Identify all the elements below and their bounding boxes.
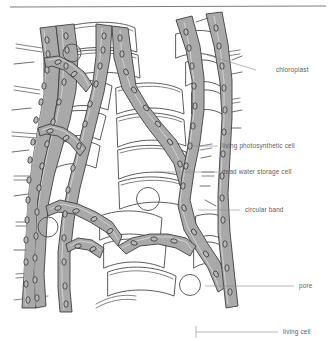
chloroplast — [25, 217, 29, 224]
chloroplast — [222, 129, 226, 136]
label-dead-water-storage-cell: dead water storage cell — [222, 168, 292, 176]
chloroplast — [120, 51, 124, 58]
chloroplast — [62, 259, 66, 266]
chloroplast — [217, 43, 221, 50]
chloroplast — [35, 295, 39, 302]
chloroplast — [223, 107, 227, 114]
chloroplast — [193, 103, 197, 110]
chloroplast — [221, 217, 225, 224]
chloroplast — [190, 63, 194, 70]
chloroplast — [46, 50, 51, 57]
chloroplast — [101, 47, 105, 54]
band-lower-center — [118, 234, 196, 256]
label-circular-band: circular band — [245, 206, 284, 213]
chloroplast — [64, 63, 68, 70]
chloroplast — [24, 259, 28, 266]
chloroplast — [183, 162, 188, 169]
chloroplast — [33, 116, 39, 123]
label-living-cell: living cell — [283, 328, 311, 336]
chloroplast — [63, 32, 68, 39]
chloroplast — [44, 36, 49, 43]
label-chloroplast: chloroplast — [276, 66, 309, 74]
chloroplast — [192, 83, 196, 90]
chloroplast — [64, 301, 68, 308]
chloroplast — [63, 283, 67, 290]
chloroplast — [102, 33, 107, 40]
chloroplast — [26, 297, 30, 304]
chloroplast — [188, 142, 193, 149]
chloroplast — [33, 277, 37, 284]
chloroplast — [222, 85, 226, 92]
pore-circle — [180, 275, 201, 296]
top-divider-rule — [10, 6, 326, 7]
pore-circle — [137, 188, 160, 211]
label-pore: pore — [299, 282, 313, 290]
chloroplast — [213, 24, 218, 31]
chloroplast — [191, 123, 195, 130]
chloroplast — [63, 210, 68, 217]
chloroplast — [61, 78, 66, 85]
leader-line-chloroplast — [207, 55, 256, 70]
chloroplast — [187, 45, 191, 52]
chloroplast — [33, 255, 37, 262]
chloroplast — [223, 241, 227, 248]
band-lower-short — [66, 238, 104, 258]
chloroplast — [34, 233, 38, 240]
chloroplast — [62, 235, 66, 242]
chloroplast — [24, 237, 28, 244]
chloroplast — [181, 182, 186, 189]
chloroplast — [36, 184, 41, 191]
label-living-photosynthetic-cell: living photosynthetic cell — [222, 142, 295, 150]
chloroplast — [220, 63, 224, 70]
chloroplast — [35, 209, 39, 216]
sphagnum-leaf-diagram: chloroplast living photosynthetic cell d… — [0, 0, 333, 341]
chloroplast — [225, 265, 229, 272]
chloroplast — [118, 35, 122, 42]
chloroplast — [150, 237, 157, 242]
chloroplast — [42, 82, 47, 89]
chloroplast — [228, 289, 232, 296]
chloroplast — [45, 67, 50, 74]
diagram-canvas — [12, 12, 242, 312]
chloroplast — [27, 176, 32, 183]
chloroplast — [221, 151, 225, 158]
chloroplast — [183, 28, 188, 35]
chloroplast — [26, 197, 31, 204]
chloroplast — [220, 195, 224, 202]
chloroplast — [24, 281, 28, 288]
